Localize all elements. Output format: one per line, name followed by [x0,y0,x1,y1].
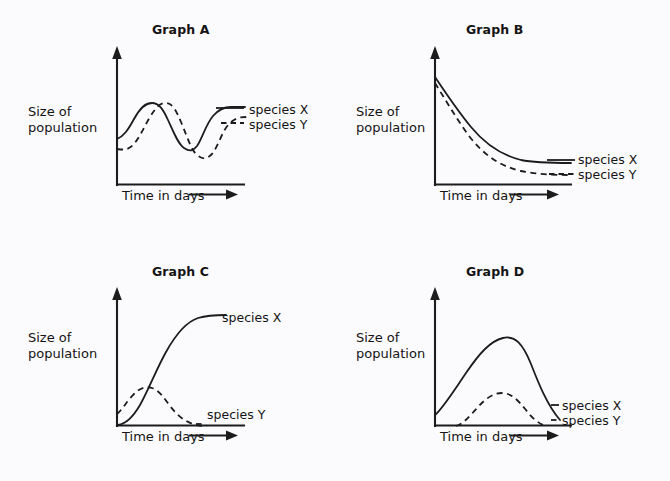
graph-c-plot [0,240,335,481]
graph-d-panel: Graph D Size of population Time in days … [335,240,670,481]
graph-a-panel: Graph A Size of population Time in days … [0,0,335,240]
graph-b-plot [335,0,670,240]
graph-a-curve-species-y [117,103,249,158]
graph-c-x-axis-label-arrow-head [226,431,238,441]
graph-d-x-axis-label-arrow-head [547,431,559,441]
graph-a-plot [0,0,335,240]
graph-b-panel: Graph B Size of population Time in days … [335,0,670,240]
graph-c-panel: Graph C Size of population Time in days … [0,240,335,481]
graph-d-curve-species-y [456,393,546,426]
graph-d-plot [335,240,670,481]
graph-b-x-axis-label-arrow-head [547,190,559,200]
graph-b-curve-species-x [435,77,571,163]
graph-a-y-axis-arrow [112,46,122,59]
figure-panel: Graph A Size of population Time in days … [0,0,670,481]
graph-d-curve-species-x [435,337,560,420]
graph-c-y-axis-arrow [112,287,122,300]
graph-c-curve-species-y [117,387,207,426]
graph-b-curve-species-y [435,83,571,175]
graph-b-y-axis-arrow [430,46,440,59]
graph-a-x-axis-label-arrow-head [226,190,238,200]
graph-d-y-axis-arrow [430,287,440,300]
